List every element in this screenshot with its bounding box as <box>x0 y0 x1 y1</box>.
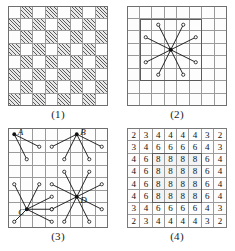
knight-origin-marker <box>169 48 173 52</box>
knight-move-line <box>77 172 90 197</box>
board-square-hatch <box>33 19 46 32</box>
board-square-light <box>58 31 71 44</box>
panel-3-knight-labelled: ABCD <box>8 128 108 228</box>
move-count-cell: 8 <box>189 166 201 178</box>
board-square-hatch <box>58 69 71 82</box>
panel-4-number-grid: 2344443234666643468888644688886446888864… <box>127 128 227 228</box>
board-square-hatch <box>8 69 21 82</box>
board-square-hatch <box>8 94 21 107</box>
board-square-hatch <box>96 81 109 94</box>
board-square-light <box>46 69 59 82</box>
move-count-cell: 4 <box>202 141 214 153</box>
board-square-hatch <box>83 44 96 57</box>
board-square-hatch <box>83 94 96 107</box>
board-square-hatch <box>71 56 84 69</box>
move-count-cell: 2 <box>214 129 226 141</box>
knight-move-line <box>171 37 196 50</box>
board-square-hatch <box>46 6 59 19</box>
board-square-light <box>96 44 109 57</box>
move-count-cell: 6 <box>153 203 165 215</box>
knight-target-marker <box>88 170 91 173</box>
board-square-hatch <box>46 31 59 44</box>
move-count-cell: 4 <box>128 154 140 166</box>
knight-origin-marker <box>12 132 16 136</box>
knight-target-marker <box>50 183 53 186</box>
checkerboard-grid <box>8 6 108 106</box>
move-count-cell: 4 <box>140 141 152 153</box>
knight-target-marker <box>38 145 41 148</box>
move-count-cell: 6 <box>165 141 177 153</box>
move-count-cell: 6 <box>140 154 152 166</box>
move-count-cell: 6 <box>177 141 189 153</box>
knight-move-line <box>158 50 171 75</box>
knight-target-marker <box>13 183 16 186</box>
knight-target-marker <box>157 73 160 76</box>
board-square-hatch <box>58 19 71 32</box>
knight-move-line <box>27 209 52 222</box>
move-count-table: 2344443234666643468888644688886446888864… <box>127 128 227 228</box>
board-square-hatch <box>96 56 109 69</box>
move-count-cell: 8 <box>189 190 201 202</box>
board-square-hatch <box>96 6 109 19</box>
caption-panel-1: (1) <box>8 108 108 120</box>
board-square-light <box>8 31 21 44</box>
knight-move-line <box>27 197 52 210</box>
board-square-hatch <box>46 56 59 69</box>
move-count-cell: 8 <box>165 166 177 178</box>
board-square-hatch <box>71 81 84 94</box>
board-square-hatch <box>96 31 109 44</box>
board-square-light <box>8 6 21 19</box>
knight-move-line <box>171 50 196 63</box>
move-count-cell: 4 <box>153 215 165 227</box>
board-square-hatch <box>21 6 34 19</box>
move-count-cell: 4 <box>140 203 152 215</box>
knight-move-line <box>64 172 77 197</box>
board-square-light <box>46 44 59 57</box>
knight-target-marker <box>182 23 185 26</box>
board-square-hatch <box>21 31 34 44</box>
knight-target-marker <box>50 220 53 223</box>
move-count-cell: 6 <box>202 190 214 202</box>
knight-target-marker <box>38 183 41 186</box>
move-count-cell: 2 <box>128 215 140 227</box>
move-count-cell: 3 <box>214 203 226 215</box>
knight-target-marker <box>50 145 53 148</box>
knight-target-marker <box>144 36 147 39</box>
move-count-cell: 4 <box>202 203 214 215</box>
board-square-light <box>46 94 59 107</box>
knight-origin-marker <box>25 207 29 211</box>
board-square-light <box>71 19 84 32</box>
board-square-hatch <box>83 19 96 32</box>
move-count-cell: 8 <box>153 190 165 202</box>
board-square-hatch <box>33 44 46 57</box>
move-count-cell: 6 <box>165 203 177 215</box>
knight-origin-marker <box>75 132 79 136</box>
board-square-hatch <box>21 56 34 69</box>
board-square-hatch <box>8 19 21 32</box>
move-count-cell: 4 <box>177 129 189 141</box>
move-count-cell: 4 <box>214 178 226 190</box>
move-count-cell: 3 <box>128 141 140 153</box>
move-count-cell: 2 <box>214 215 226 227</box>
knight-move-line <box>158 25 171 50</box>
board-square-light <box>21 69 34 82</box>
knight-target-marker <box>63 158 66 161</box>
panel-2-knight-center <box>127 6 227 106</box>
move-count-cell: 4 <box>128 166 140 178</box>
panel-1-checkerboard <box>8 6 108 106</box>
board-square-light <box>96 94 109 107</box>
board-square-light <box>83 81 96 94</box>
knight-move-grid <box>127 6 227 106</box>
move-count-cell: 3 <box>202 215 214 227</box>
board-square-light <box>71 69 84 82</box>
knight-origin-marker <box>75 195 79 199</box>
knight-move-line <box>64 134 77 159</box>
board-square-hatch <box>33 94 46 107</box>
knight-move-line <box>171 25 184 50</box>
board-square-light <box>58 81 71 94</box>
move-count-cell: 8 <box>153 154 165 166</box>
move-count-cell: 4 <box>189 129 201 141</box>
move-count-cell: 4 <box>153 129 165 141</box>
board-square-light <box>46 19 59 32</box>
knight-target-marker <box>144 61 147 64</box>
